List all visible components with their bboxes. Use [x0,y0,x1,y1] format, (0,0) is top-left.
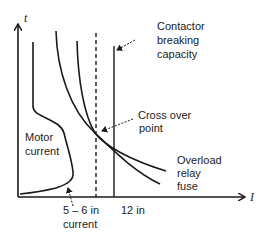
protection-diagram: t I Contactor breaking capacity Cross ov… [0,0,270,243]
crossover-label-line2: point [139,122,163,134]
tick-12-label: 12 in [121,204,145,216]
crossover-label: Cross over point [138,109,192,134]
tick-5-6-label: 5 – 6 in current [63,204,99,230]
overload-label-line2: relay [177,167,201,179]
tick-5-6-label-line2: current [63,218,97,230]
motor-label-line1: Motor [25,131,53,143]
overload-label-line1: Overload [177,154,222,166]
crossover-pointer-arrow [102,119,133,131]
crossover-label-line1: Cross over [138,109,192,121]
motor-current-curve [20,42,73,194]
contactor-label-line1: Contactor [157,20,205,32]
overload-label-line3: fuse [177,180,198,192]
x-axis-label: I [249,190,255,204]
overload-relay-curve [77,41,166,171]
contactor-pointer-arrow [117,40,135,50]
overload-label: Overload relay fuse [177,154,222,192]
motor-label: Motor current [25,131,59,157]
contactor-label-line3: capacity [157,48,198,60]
tick-5-6-label-line1: 5 – 6 in [63,204,99,216]
contactor-label: Contactor breaking capacity [157,20,205,60]
motor-label-line2: current [25,145,59,157]
contactor-label-line2: breaking [157,34,199,46]
y-axis-label: t [24,11,28,25]
